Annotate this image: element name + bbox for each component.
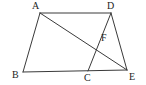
vertex-label-e: E xyxy=(129,72,135,82)
vertex-label-b: B xyxy=(12,70,19,80)
vertex-label-f: F xyxy=(101,33,107,43)
vertex-label-d: D xyxy=(107,1,114,11)
segment-dc xyxy=(88,13,111,71)
segment-ab xyxy=(23,13,40,72)
geometry-figure: ADBCEF xyxy=(0,0,146,85)
geometry-canvas xyxy=(0,0,146,85)
segment-be xyxy=(23,70,127,72)
vertex-label-a: A xyxy=(32,1,39,11)
segment-ae xyxy=(40,13,127,70)
segment-group xyxy=(23,13,127,72)
vertex-label-c: C xyxy=(84,73,91,83)
